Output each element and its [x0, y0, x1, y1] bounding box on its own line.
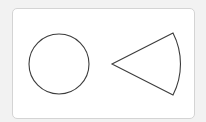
- diagram-canvas: [0, 0, 206, 122]
- sector-shape: [112, 33, 180, 95]
- circle-shape: [29, 34, 89, 94]
